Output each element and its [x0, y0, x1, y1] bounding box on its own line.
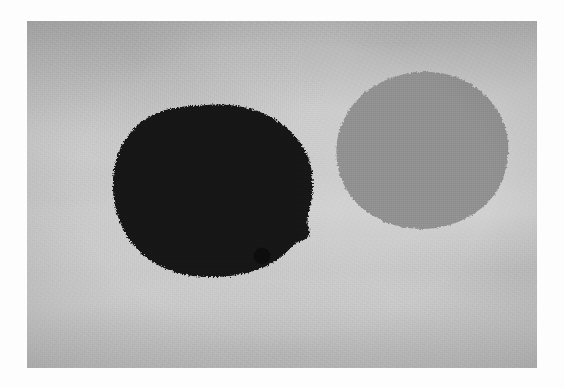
mount-pencil-annotation: · · ·: [84, 374, 144, 383]
artwork-canvas: · · ·: [0, 0, 564, 388]
print-vignette: [27, 21, 537, 368]
photographic-print: [27, 21, 537, 368]
